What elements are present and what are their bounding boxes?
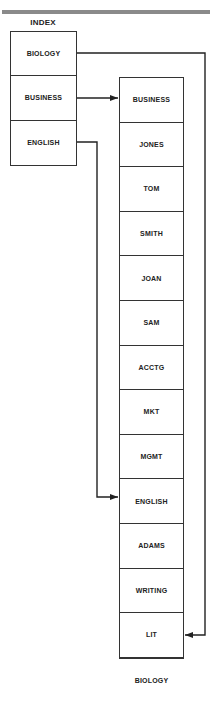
english-link-arrow: [77, 142, 118, 497]
biology-link-arrow: [77, 53, 205, 635]
link-arrows: [0, 0, 215, 702]
